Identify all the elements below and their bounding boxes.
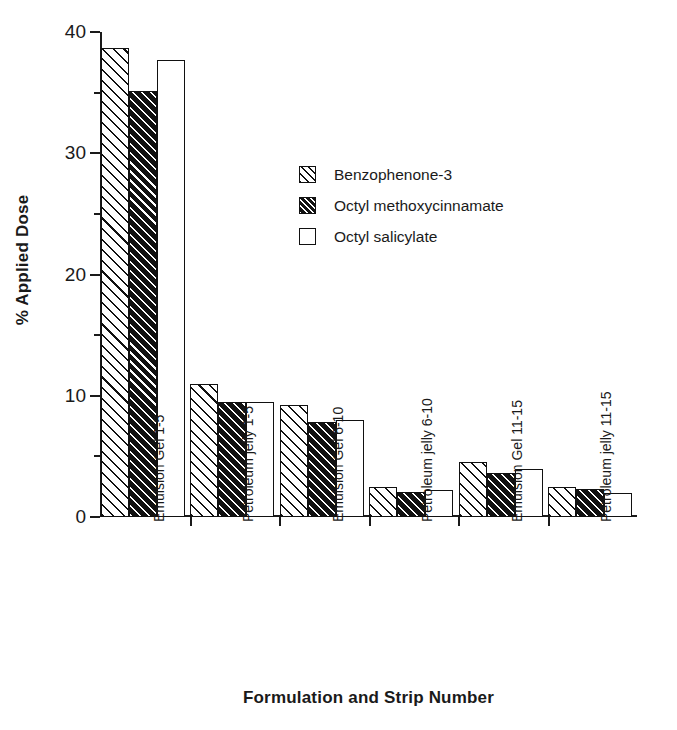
x-axis-category-label-text: Emulsion Gel 1-5: [151, 415, 167, 522]
y-axis-tick-label: 10: [2, 385, 86, 407]
legend-label: Octyl salicylate: [334, 228, 437, 246]
y-axis-minor-tick: [94, 334, 100, 336]
legend-swatch: [299, 166, 316, 183]
plot-area: [100, 32, 637, 517]
bar: [459, 462, 487, 517]
y-axis-major-tick: [90, 152, 100, 154]
legend: Benzophenone-3Octyl methoxycinnamateOcty…: [299, 162, 539, 255]
x-axis-category-label-text: Petroleum jelly 1-5: [240, 406, 256, 522]
y-axis-tick-label: 40: [2, 21, 86, 43]
y-axis-tick-label: 20: [2, 264, 86, 286]
legend-item: Octyl methoxycinnamate: [299, 193, 539, 218]
legend-label: Benzophenone-3: [334, 166, 452, 184]
legend-swatch: [299, 197, 316, 214]
bar: [548, 487, 576, 517]
y-axis-major-tick: [90, 274, 100, 276]
y-axis-major-tick: [90, 31, 100, 33]
y-axis-major-tick: [90, 516, 100, 518]
x-axis-title: Formulation and Strip Number: [100, 688, 637, 708]
bar: [101, 48, 129, 517]
legend-item: Benzophenone-3: [299, 162, 539, 187]
y-axis-tick-label: 30: [2, 142, 86, 164]
y-axis-minor-tick: [94, 455, 100, 457]
y-axis-title: % Applied Dose: [0, 0, 46, 520]
bar: [190, 384, 218, 517]
legend-item: Octyl salicylate: [299, 224, 539, 249]
x-axis-category-label-text: Petroleum jelly 6-10: [419, 398, 435, 522]
bar: [280, 405, 308, 517]
bar: [369, 487, 397, 517]
y-axis-title-text: % Applied Dose: [13, 195, 33, 326]
y-axis-major-tick: [90, 395, 100, 397]
y-axis-minor-tick: [94, 213, 100, 215]
x-axis-category-label-text: Petroleum jelly 11-15: [598, 392, 614, 522]
x-axis-tick-labels: Emulsion Gel 1-5Petroleum jelly 1-5Emuls…: [100, 522, 637, 682]
legend-swatch: [299, 228, 316, 245]
y-axis-tick-label: 0: [2, 506, 86, 528]
x-axis-category-label-text: Emulsion Gel 6-10: [330, 407, 346, 522]
x-axis-category-label-text: Emulsion Gel 11-15: [509, 400, 525, 522]
bar-chart-figure: % Applied Dose 010203040 Emulsion Gel 1-…: [0, 0, 677, 730]
y-axis-minor-tick: [94, 92, 100, 94]
legend-label: Octyl methoxycinnamate: [334, 197, 504, 215]
